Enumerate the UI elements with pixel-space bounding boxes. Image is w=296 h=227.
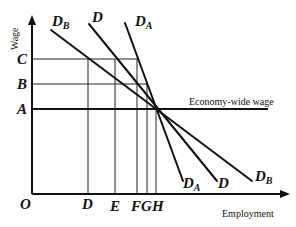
curve-da-bottom-label: DA — [182, 175, 201, 193]
curve-da-top-label: DA — [134, 13, 153, 31]
wage-label-c: C — [17, 51, 28, 67]
economy-wide-wage-label: Economy-wide wage — [189, 96, 274, 107]
curve-d-top-label: D — [91, 9, 103, 25]
emp-label-h: H — [151, 198, 165, 214]
guide-lines — [32, 59, 156, 194]
curve-db-top-label: DB — [51, 13, 70, 31]
wage-label-a: A — [16, 101, 27, 117]
emp-label-f: F — [130, 198, 141, 214]
x-axis-title: Employment — [222, 208, 274, 219]
y-axis-arrow-icon — [28, 15, 36, 25]
curve-db-bottom-label: DB — [254, 168, 273, 186]
emp-label-g: G — [141, 198, 152, 214]
x-axis-arrow-icon — [280, 190, 290, 198]
wage-label-b: B — [16, 76, 27, 92]
demand-curve-da — [125, 23, 183, 181]
emp-label-e: E — [109, 198, 120, 214]
labor-demand-diagram: Wage Employment C B A O D E F G H Econom… — [0, 0, 296, 227]
emp-label-d: D — [81, 196, 93, 212]
origin-label: O — [20, 196, 31, 212]
curve-d-bottom-label: D — [217, 175, 229, 191]
y-axis-title: Wage — [9, 27, 20, 50]
